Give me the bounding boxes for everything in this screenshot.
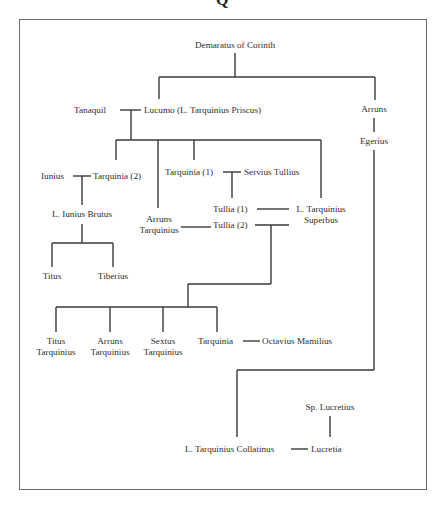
person-l-iunius-brutus: L. Iunius Brutus xyxy=(52,209,112,220)
person-octavius-mamilius: Octavius Mamilius xyxy=(262,336,332,347)
person-lucretia: Lucretia xyxy=(311,444,342,455)
person-tiberius: Tiberius xyxy=(98,271,128,282)
person-demaratus: Demaratus of Corinth xyxy=(195,40,275,51)
tree-connectors xyxy=(0,0,446,515)
person-egerius: Egerius xyxy=(360,136,388,147)
person-lucumo: Lucumo (L. Tarquinius Priscus) xyxy=(144,105,261,116)
person-tullia-1: Tullia (1) xyxy=(213,204,248,215)
person-tanaquil: Tanaquil xyxy=(74,105,106,116)
person-superbus-line1: L. Tarquinius xyxy=(296,204,345,215)
person-arruns-tarquinius-line2: Tarquinius xyxy=(139,225,178,236)
person-sextus-line2: Tarquinius xyxy=(143,347,182,358)
person-arruns-child-line2: Tarquinius xyxy=(90,347,129,358)
person-sextus-line1: Sextus xyxy=(151,336,176,347)
person-titus-tarquinius-line2: Tarquinius xyxy=(36,347,75,358)
person-sp-lucretius: Sp. Lucretius xyxy=(306,402,355,413)
person-servius-tullius: Servius Tullius xyxy=(244,167,299,178)
person-collatinus: L. Tarquinius Collatinus xyxy=(185,444,274,455)
person-titus: Titus xyxy=(43,271,62,282)
person-arruns-son-of-demaratus: Arruns xyxy=(361,104,387,115)
person-tullia-2: Tullia (2) xyxy=(213,220,248,231)
person-arruns-tarquinius-line1: Arruns xyxy=(146,214,172,225)
person-tarquinia-daughter: Tarquinia xyxy=(198,336,233,347)
person-iunius: Iunius xyxy=(41,171,64,182)
person-arruns-child-line1: Arruns xyxy=(97,336,123,347)
person-titus-tarquinius-line1: Titus xyxy=(47,336,66,347)
person-tarquinia-2: Tarquinia (2) xyxy=(93,171,141,182)
person-superbus-line2: Superbus xyxy=(304,215,338,226)
person-tarquinia-1: Tarquinia (1) xyxy=(165,167,213,178)
